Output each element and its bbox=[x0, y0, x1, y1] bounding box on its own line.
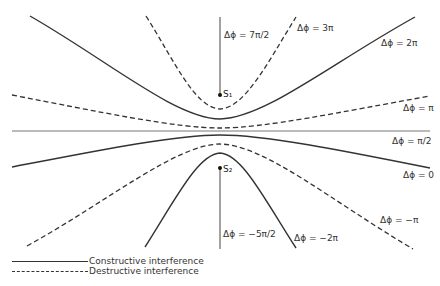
legend-solid-swatch bbox=[12, 261, 88, 262]
source-s2-dot bbox=[218, 166, 222, 170]
source-s1-label: S₁ bbox=[223, 90, 232, 99]
legend-destructive-label: Destructive interference bbox=[89, 266, 199, 276]
legend-constructive: Constructive interference bbox=[12, 256, 204, 266]
label-7pi-2: Δϕ = 7π/2 bbox=[224, 31, 269, 40]
label-neg-2pi: Δϕ = −2π bbox=[294, 234, 338, 243]
label-pi: Δϕ = π bbox=[403, 104, 434, 113]
legend-destructive: Destructive interference bbox=[12, 266, 199, 276]
label-neg-pi: Δϕ = −π bbox=[380, 216, 418, 225]
label-0: Δϕ = 0 bbox=[403, 171, 434, 180]
label-3pi: Δϕ = 3π bbox=[297, 24, 334, 33]
curve-0 bbox=[12, 135, 430, 168]
source-s1-dot bbox=[218, 93, 222, 97]
legend-dashed-swatch bbox=[12, 271, 88, 272]
legend-constructive-label: Constructive interference bbox=[89, 256, 204, 266]
curve-pi bbox=[12, 95, 430, 128]
source-s2-label: S₂ bbox=[223, 165, 232, 174]
interference-diagram bbox=[0, 0, 440, 286]
label-pi-2: Δϕ = π/2 bbox=[392, 137, 432, 146]
label-2pi: Δϕ = 2π bbox=[381, 39, 418, 48]
curve-2pi bbox=[30, 16, 415, 119]
label-neg-5pi-2: Δϕ = −5π/2 bbox=[223, 230, 276, 239]
